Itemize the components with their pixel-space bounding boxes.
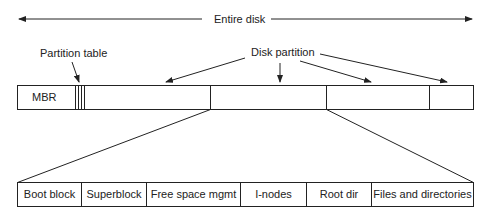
mbr-label: MBR — [32, 91, 57, 103]
expand-line-left — [18, 110, 211, 183]
cell-superblock: Superblock — [86, 188, 142, 200]
cell-root-dir: Root dir — [320, 188, 359, 200]
partition-table-arrow-icon — [72, 62, 79, 82]
disk-bar-outline — [18, 86, 474, 110]
disk-partition-label: Disk partition — [251, 46, 315, 58]
disk-layout-diagram: Entire disk Partition table Disk partiti… — [0, 0, 490, 219]
cell-boot-block: Boot block — [24, 188, 76, 200]
cell-files-and-directories: Files and directories — [373, 188, 472, 200]
disk-partition-arrow-3-icon — [300, 61, 371, 82]
cell-i-nodes: I-nodes — [255, 188, 292, 200]
partition-layout-row: Boot block Superblock Free space mgmt I-… — [18, 183, 474, 207]
entire-disk-label: Entire disk — [214, 13, 266, 25]
entire-disk-span: Entire disk — [19, 13, 472, 25]
partition-table-label: Partition table — [40, 47, 107, 59]
disk-bar: MBR — [18, 86, 474, 110]
disk-partition-arrow-1-icon — [166, 58, 245, 82]
disk-partition-arrow-4-icon — [320, 54, 447, 82]
cell-free-space-mgmt: Free space mgmt — [151, 188, 237, 200]
expand-line-right — [327, 110, 474, 183]
